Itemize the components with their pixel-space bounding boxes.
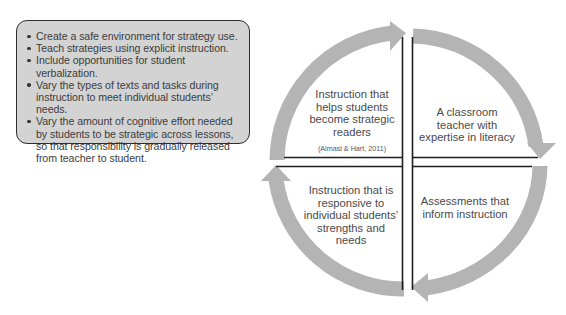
arrowhead-right-icon (390, 21, 406, 51)
quadrant-label: Instruction that is responsive to indivi… (304, 184, 399, 246)
citation: (Almasi & Hart, 2011) (306, 144, 398, 153)
quadrant-top-right: A classroom teacher with expertise in li… (418, 106, 516, 144)
quadrant-label: Instruction that helps students become s… (309, 88, 394, 138)
arrowhead-down-icon (527, 143, 556, 159)
arrow-bottom-right (426, 166, 540, 288)
quadrant-label: A classroom teacher with expertise in li… (419, 106, 515, 143)
quadrant-top-left: Instruction that helps students become s… (306, 88, 398, 153)
quadrant-bottom-right: Assessments that inform instruction (420, 195, 510, 220)
quadrant-label: Assessments that inform instruction (421, 195, 509, 220)
quadrant-bottom-left: Instruction that is responsive to indivi… (301, 184, 401, 247)
cycle-diagram (0, 0, 566, 315)
arrowhead-left-icon (411, 273, 428, 302)
arrowhead-up-icon (261, 165, 291, 181)
